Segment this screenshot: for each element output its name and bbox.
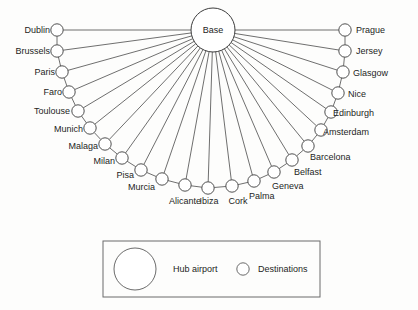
arc-link-malaga-milan xyxy=(110,148,117,154)
spoke-line-belfast xyxy=(224,49,288,155)
destination-node-munich[interactable] xyxy=(84,122,96,134)
destination-node-palma[interactable] xyxy=(248,175,260,187)
arc-link-murcia-alicante xyxy=(168,181,179,184)
destination-label-murcia: Murcia xyxy=(99,182,155,192)
hub-spoke-diagram: DublinBrusselsParisFaroToulouseMunichMal… xyxy=(0,0,418,310)
arc-link-edinburgh-nice xyxy=(333,99,336,106)
arc-link-amsterdam-edinburgh xyxy=(324,117,328,124)
destination-label-paris: Paris xyxy=(12,67,55,77)
destination-node-cork[interactable] xyxy=(226,180,238,192)
spoke-line-amsterdam xyxy=(229,45,316,126)
destination-label-malaga: Malaga xyxy=(40,141,98,151)
spoke-line-edinburgh xyxy=(231,43,326,109)
spoke-line-nice xyxy=(233,40,333,90)
arc-link-barcelona-amsterdam xyxy=(312,135,317,141)
destination-node-brussels[interactable] xyxy=(51,45,63,57)
destination-label-jersey: Jersey xyxy=(356,46,383,56)
arc-link-glasgow-jersey xyxy=(344,57,345,66)
destination-node-pisa[interactable] xyxy=(135,164,147,176)
destination-node-toulouse[interactable] xyxy=(72,105,84,117)
destination-node-paris[interactable] xyxy=(56,66,68,78)
arc-link-pisa-murcia xyxy=(147,172,157,176)
arc-link-toulouse-munich xyxy=(82,116,87,123)
destination-label-amsterdam: Amsterdam xyxy=(323,127,369,137)
spoke-line-geneva xyxy=(222,50,272,166)
destination-node-alicante[interactable] xyxy=(179,179,191,191)
destination-label-faro: Faro xyxy=(19,87,62,97)
spoke-line-malaga xyxy=(109,46,198,140)
destination-label-munich: Munich xyxy=(25,124,83,134)
destination-label-pisa: Pisa xyxy=(86,170,134,180)
arc-link-ibiza-cork xyxy=(214,187,226,188)
destination-label-toulouse: Toulouse xyxy=(10,106,70,116)
destination-node-belfast[interactable] xyxy=(286,154,298,166)
spoke-line-munich xyxy=(95,44,196,124)
destination-node-glasgow[interactable] xyxy=(337,66,349,78)
destination-node-milan[interactable] xyxy=(116,152,128,164)
destination-node-jersey[interactable] xyxy=(339,45,351,57)
destination-node-geneva[interactable] xyxy=(268,166,280,178)
destination-node-ibiza[interactable] xyxy=(202,182,214,194)
destination-node-faro[interactable] xyxy=(63,86,75,98)
arc-link-munich-malaga xyxy=(94,133,101,140)
destination-label-brussels: Brussels xyxy=(0,46,50,56)
arc-link-faro-toulouse xyxy=(72,98,76,106)
destination-node-malaga[interactable] xyxy=(99,138,111,150)
destination-label-prague: Prague xyxy=(356,25,385,35)
legend-destination-symbol xyxy=(237,263,249,275)
destination-label-edinburgh: Edinburgh xyxy=(333,108,374,118)
hub-label: Base xyxy=(183,25,243,35)
destination-node-murcia[interactable] xyxy=(156,173,168,185)
spoke-line-toulouse xyxy=(83,41,194,107)
arc-link-brussels-paris xyxy=(58,57,60,66)
arc-link-alicante-ibiza xyxy=(191,186,202,187)
arc-link-milan-pisa xyxy=(127,161,136,166)
arc-link-geneva-belfast xyxy=(279,163,287,168)
spoke-line-alicante xyxy=(186,52,209,179)
arc-link-nice-glasgow xyxy=(339,78,341,87)
spoke-line-pisa xyxy=(144,50,203,165)
destination-node-dublin[interactable] xyxy=(51,24,63,36)
arc-link-palma-geneva xyxy=(260,175,269,179)
destination-label-geneva: Geneva xyxy=(272,181,304,191)
spoke-line-palma xyxy=(219,51,253,175)
destination-label-nice: Nice xyxy=(348,89,366,99)
destination-label-palma: Palma xyxy=(249,191,275,201)
destination-label-dublin: Dublin xyxy=(7,25,50,35)
destination-label-milan: Milan xyxy=(61,156,115,166)
arc-link-cork-palma xyxy=(238,182,248,184)
spoke-line-ibiza xyxy=(208,52,212,182)
spoke-line-barcelona xyxy=(227,47,304,141)
arc-link-belfast-barcelona xyxy=(297,150,304,156)
destination-node-barcelona[interactable] xyxy=(302,140,314,152)
spoke-line-cork xyxy=(216,52,232,180)
destination-label-belfast: Belfast xyxy=(294,167,322,177)
arc-link-paris-faro xyxy=(64,78,67,86)
legend-hub-label: Hub airport xyxy=(173,264,218,274)
destination-label-glasgow: Glasgow xyxy=(353,68,388,78)
destination-node-nice[interactable] xyxy=(332,87,344,99)
destination-label-barcelona: Barcelona xyxy=(310,152,351,162)
legend-destinations-label: Destinations xyxy=(258,264,308,274)
destination-node-prague[interactable] xyxy=(339,24,351,36)
legend-hub-symbol xyxy=(114,248,156,290)
